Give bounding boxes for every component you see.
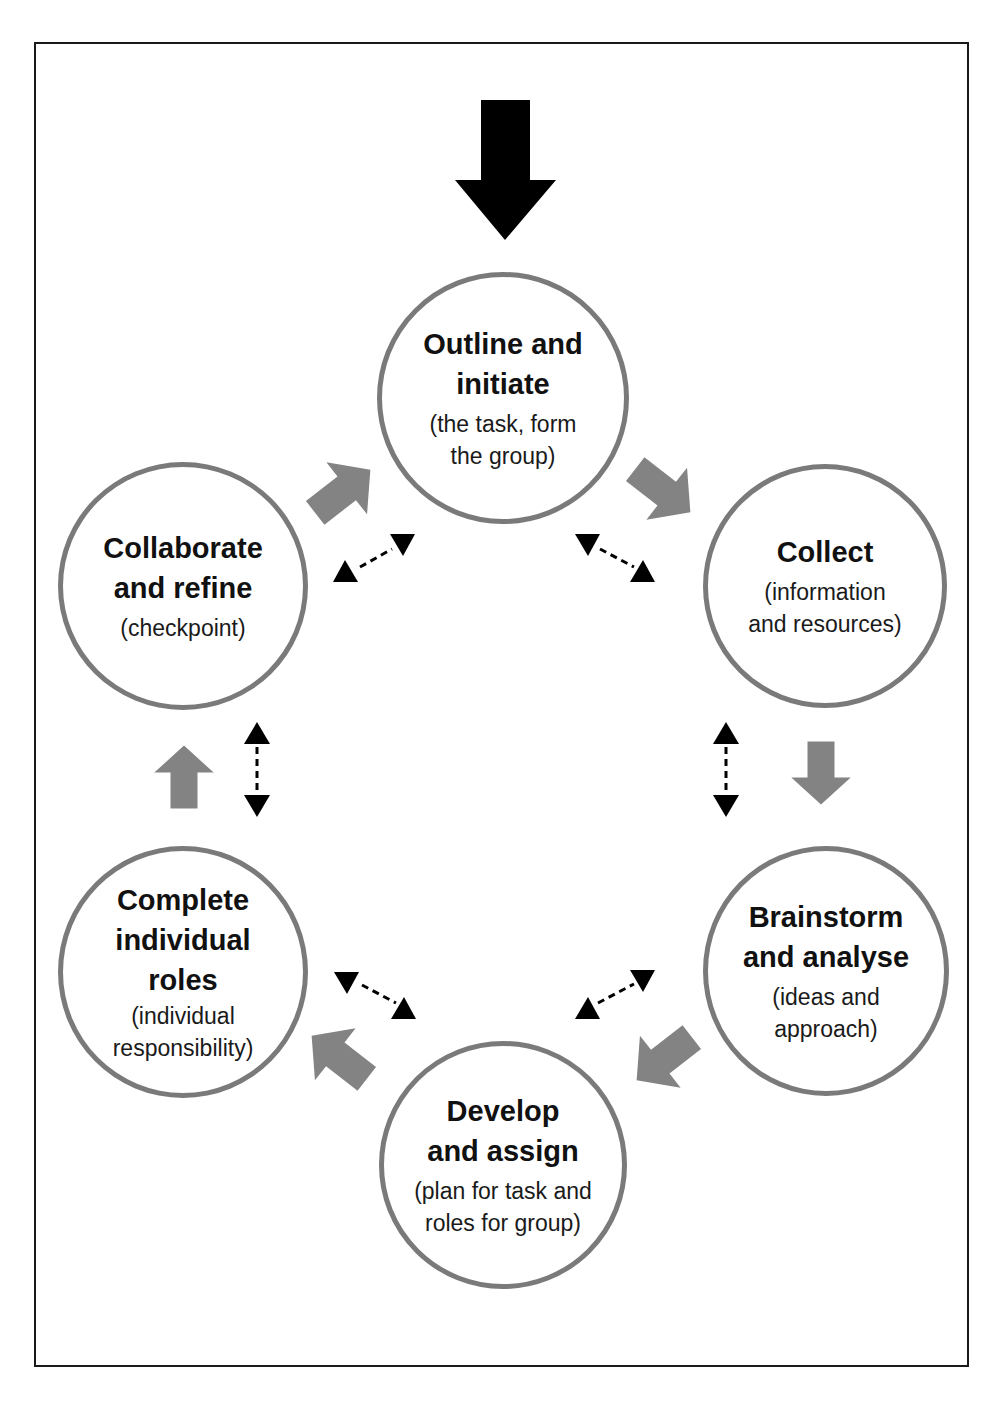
node-title: Brainstorm and analyse (743, 897, 909, 977)
node-subtitle: (information and resources) (748, 576, 901, 640)
node-develop-and-assign: Develop and assign (plan for task and ro… (379, 1041, 627, 1289)
node-title: Outline and initiate (423, 324, 583, 404)
flow-arrow-collaborate-to-outline-icon (295, 444, 391, 539)
node-title: Complete individual roles (115, 880, 250, 1000)
bidirectional-arrow-collaborate-outline-icon (333, 534, 415, 582)
node-collect: Collect (information and resources) (703, 464, 947, 708)
flow-arrow-collect-to-brainstorm-icon (791, 741, 850, 804)
node-subtitle: (individual responsibility) (113, 1000, 254, 1064)
flow-arrow-develop-to-complete-icon (291, 1010, 387, 1105)
bidirectional-arrow-outline-collect-icon (575, 534, 655, 582)
node-subtitle: (checkpoint) (120, 612, 245, 644)
node-subtitle: (plan for task and roles for group) (414, 1175, 592, 1239)
node-title: Collaborate and refine (103, 528, 263, 608)
flow-arrow-complete-to-collaborate-icon (154, 746, 213, 809)
node-subtitle: (ideas and approach) (772, 981, 879, 1045)
node-complete-individual-roles: Complete individual roles (individual re… (58, 846, 308, 1098)
bidirectional-arrow-brainstorm-develop-icon (575, 970, 655, 1019)
node-title: Collect (777, 532, 874, 572)
flow-arrow-outline-to-collect-icon (615, 443, 711, 538)
bidirectional-arrow-collect-brainstorm-icon (713, 722, 739, 817)
bidirectional-arrow-develop-complete-icon (334, 972, 416, 1019)
node-subtitle: (the task, form the group) (430, 408, 577, 472)
flow-arrow-brainstorm-to-develop-icon (616, 1011, 712, 1106)
node-brainstorm-and-analyse: Brainstorm and analyse (ideas and approa… (703, 846, 949, 1096)
node-collaborate-and-refine: Collaborate and refine (checkpoint) (58, 462, 308, 710)
start-arrow-icon (455, 100, 556, 240)
node-outline-and-initiate: Outline and initiate (the task, form the… (377, 272, 629, 524)
node-title: Develop and assign (427, 1091, 579, 1171)
bidirectional-arrow-complete-collaborate-icon (244, 722, 270, 817)
